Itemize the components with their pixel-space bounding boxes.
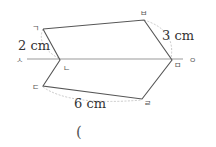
point-label-nieun: ㄴ (63, 64, 70, 73)
point-label-bieup: ㅂ (140, 9, 147, 18)
length-label-3cm: 3 cm (162, 28, 194, 43)
symmetry-diagram: ㄱ ㄴ ㄷ ㄹ ㅁ ㅂ ㅅ ㅇ 2 cm 3 cm 6 cm ( (0, 0, 216, 147)
point-label-mieum: ㅁ (174, 61, 181, 70)
axis-label-start: ㅅ (16, 56, 23, 65)
point-label-giyeok: ㄱ (32, 24, 39, 33)
point-label-digeut: ㄷ (32, 83, 39, 92)
point-label-rieul: ㄹ (144, 99, 151, 108)
answer-blank-paren: ( (76, 123, 82, 141)
length-label-6cm: 6 cm (74, 96, 106, 111)
axis-label-end: ㅇ (189, 56, 196, 65)
length-label-2cm: 2 cm (18, 38, 50, 53)
